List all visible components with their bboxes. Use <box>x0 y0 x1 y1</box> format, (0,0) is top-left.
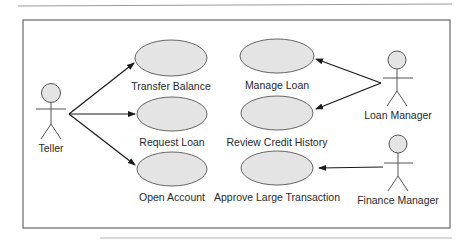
association-arrow <box>316 59 381 83</box>
use-case-manage-loan[interactable]: Manage Loan <box>240 39 314 91</box>
use-case-transfer-balance[interactable]: Transfer Balance <box>131 40 211 92</box>
association-arrow <box>316 83 381 109</box>
actor-teller[interactable]: Teller <box>36 84 66 155</box>
use-case-label: Request Loan <box>139 136 205 148</box>
association-arrow <box>319 167 383 168</box>
actor-head-icon <box>389 135 407 153</box>
use-case-request-loan[interactable]: Request Loan <box>137 97 207 148</box>
actor-label: Loan Manager <box>364 109 432 121</box>
actor-finance-manager[interactable]: Finance Manager <box>357 135 439 206</box>
actor-label: Finance Manager <box>357 194 439 206</box>
use-case-label: Review Credit History <box>227 136 329 148</box>
associations <box>69 59 383 168</box>
use-case-label: Manage Loan <box>245 79 309 91</box>
use-case-review-credit-history[interactable]: Review Credit History <box>227 96 329 148</box>
use-case-label: Transfer Balance <box>131 80 211 92</box>
use-case-label: Approve Large Transaction <box>214 191 340 203</box>
actor-head-icon <box>42 84 61 103</box>
association-arrow <box>69 63 134 114</box>
use-case-approve-large-transaction[interactable]: Approve Large Transaction <box>214 151 340 203</box>
actor-head-icon <box>388 51 406 69</box>
use-case-label: Open Account <box>139 191 205 203</box>
use-case-open-account[interactable]: Open Account <box>137 152 207 203</box>
use-case-diagram: Teller Loan Manager Finance Manager Tran… <box>0 0 470 241</box>
top-rule <box>18 4 452 6</box>
actor-label: Teller <box>38 142 64 154</box>
association-arrow <box>69 114 135 165</box>
